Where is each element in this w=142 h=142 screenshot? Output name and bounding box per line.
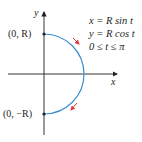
point-bottom (42, 112, 45, 115)
direction-arrow-top (73, 38, 79, 44)
parametric-semicircle-diagram: y x (0, R) (0, −R) x = R sin t y = R cos… (0, 0, 142, 142)
point-top-label: (0, R) (8, 28, 31, 40)
equation-y: y = R cos t (89, 27, 135, 40)
parameter-range: 0 ≤ t ≤ π (89, 40, 135, 53)
parametric-equations: x = R sin t y = R cos t 0 ≤ t ≤ π (89, 14, 135, 53)
point-top (42, 32, 45, 35)
equation-x: x = R sin t (89, 14, 135, 27)
direction-arrow-bottom (71, 103, 77, 110)
x-axis-label: x (110, 76, 116, 87)
y-axis-label: y (33, 7, 39, 18)
point-bottom-label: (0, −R) (3, 108, 32, 120)
